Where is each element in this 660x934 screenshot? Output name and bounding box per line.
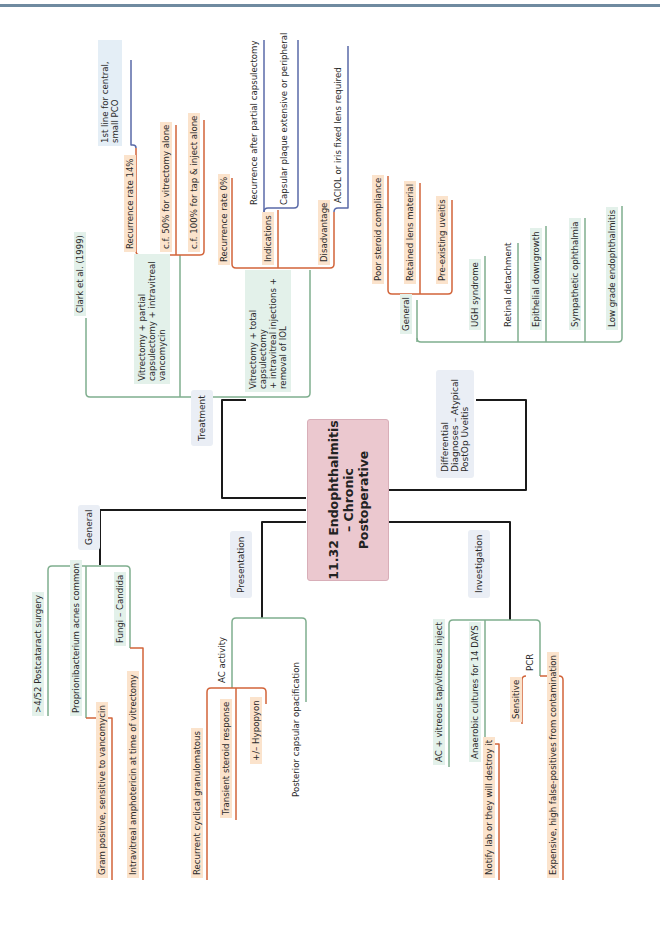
first-line-1: 1st line for central, <box>100 43 110 143</box>
total-line-1: Vitrectomy + total <box>248 273 258 389</box>
retained-lens-material: Retained lens material <box>404 181 416 284</box>
retinal-detachment: Retinal detachment <box>502 240 514 331</box>
cf-vitrectomy: c.f. 50% for vitrectomy alone <box>160 122 172 252</box>
indication-plaque: Capsular plaque extensive or peripheral <box>278 30 290 208</box>
pcr-sensitive: Sensitive <box>510 677 522 722</box>
p-acnes-common: Proprionibacterium acnes common <box>70 560 82 716</box>
disadvantage-node: Disadvantage <box>318 200 330 265</box>
central-topic: 11.32 Endophthalmitis – Chronic Postoper… <box>307 419 389 581</box>
partial-line-3: vancomycin <box>157 257 167 381</box>
recurrent-cyclical: Recurrent cyclical granulomatous <box>191 728 203 878</box>
intravitreal-amphotericin: Intravitreal amphotericin at time of vit… <box>127 672 139 879</box>
partial-line-2: capsulectomy + intravitreal <box>147 257 157 381</box>
ugh-syndrome: UGH syndrome <box>469 259 481 330</box>
recurrence-0: Recurrence rate 0% <box>218 174 230 265</box>
central-topic-title: 11.32 Endophthalmitis – Chronic Postoper… <box>308 420 388 580</box>
poor-steroid-compliance: Poor steroid compliance <box>372 175 384 284</box>
partial-line-1: Vitrectomy + partial <box>137 257 147 381</box>
differential-node: Differential Diagnoses – Atypical PostOp… <box>436 370 474 478</box>
diff-line-1: Differential <box>440 376 450 472</box>
pre-existing-uveitis: Pre-existing uveitis <box>436 196 448 284</box>
recurrence-14: Recurrence rate 14% <box>124 155 136 252</box>
gram-positive: Gram positive, sensitive to vancomycin <box>96 702 108 878</box>
differential-general: General <box>400 294 412 334</box>
disadvantage-aciol: ACIOL or iris fixed lens required <box>332 64 344 206</box>
indications-node: Indications <box>262 212 274 265</box>
presentation-node: Presentation <box>230 531 252 598</box>
notify-lab: Notify lab or they will destroy it <box>483 737 495 878</box>
cf-tap-inject: c.f. 100% for tap & inject alone <box>188 113 200 252</box>
ac-activity: AC activity <box>216 634 228 686</box>
indication-recurrence: Recurrence after partial capsulectomy <box>248 37 260 208</box>
hypopyon: +/– Hypopyon <box>250 697 262 764</box>
partial-capsulectomy-node: Vitrectomy + partial capsulectomy + intr… <box>134 254 170 384</box>
anaerobic-cultures: Anaerobic cultures for 14 DAYS <box>469 622 481 762</box>
ac-vitreous-tap: AC + vitreous tap/vitreous inject <box>433 619 445 765</box>
posterior-capsular-opacification: Posterior capsular opacification <box>290 659 302 800</box>
transient-steroid: Transient steroid response <box>220 699 232 818</box>
fungi-candida: Fungi – Candida <box>114 572 126 646</box>
diff-line-2: Diagnoses – Atypical <box>450 376 460 472</box>
sympathetic-ophthalmia: Sympathetic ophthalmia <box>569 218 581 330</box>
total-line-2: capsulectomy <box>258 273 268 389</box>
epithelial-downgrowth: Epithelial downgrowth <box>530 228 542 330</box>
first-line-2: small PCO <box>110 43 120 143</box>
general-node: General <box>78 505 100 550</box>
total-capsulectomy-node: Vitrectomy + total capsulectomy + intrav… <box>245 270 291 392</box>
total-line-3: + intravitreal injections + <box>268 273 278 389</box>
fungi-candida-text: Fungi – Candida <box>115 575 125 643</box>
pcr-expensive: Expensive, high false-positives from con… <box>547 652 559 878</box>
treatment-node: Treatment <box>191 390 213 446</box>
total-line-4: removal of IOL <box>278 273 288 389</box>
postcataract-surgery: >4/52 Postcataract surgery <box>32 592 44 716</box>
pcr-node: PCR <box>524 651 536 674</box>
first-line-note: 1st line for central, small PCO <box>98 40 122 146</box>
diff-line-3: PostOp Uveitis <box>460 376 470 472</box>
low-grade-endophthalmitis: Low grade endophthalmitis <box>606 207 618 330</box>
investigation-node: Investigation <box>468 530 490 598</box>
clark-reference: Clark et al. (1999) <box>74 232 86 316</box>
